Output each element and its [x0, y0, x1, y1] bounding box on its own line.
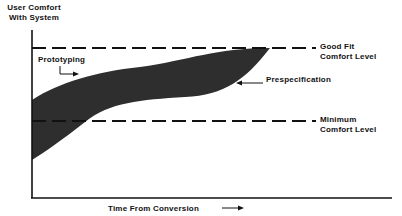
prespecification-label: Prespecification	[266, 75, 331, 85]
x-axis-label: Time From Conversion	[108, 204, 199, 214]
y-axis-label: User Comfort With System	[3, 3, 65, 23]
good-fit-label-line1: Good Fit	[320, 42, 376, 52]
good-fit-label-line2: Comfort Level	[320, 52, 376, 62]
arrow-head-icon	[73, 72, 79, 77]
minimum-label-line1: Minimum	[320, 115, 376, 125]
y-axis-label-line2: With System	[3, 13, 65, 23]
chart-canvas	[0, 0, 402, 216]
arrow-head-icon	[238, 206, 244, 211]
prototyping-arrow	[60, 66, 75, 74]
y-axis-label-line1: User Comfort	[3, 3, 65, 13]
prototyping-label: Prototyping	[38, 55, 85, 65]
minimum-label-line2: Comfort Level	[320, 125, 376, 135]
good-fit-label: Good Fit Comfort Level	[320, 42, 376, 62]
minimum-label: Minimum Comfort Level	[320, 115, 376, 135]
